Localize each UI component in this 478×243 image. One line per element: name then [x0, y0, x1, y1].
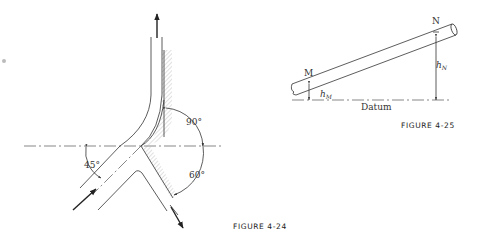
inlet-lower-wall — [98, 171, 167, 211]
figure-4-25-diagram: Datum hM hN M N FIGURE 4-25 — [291, 16, 458, 130]
figure-4-25-caption: FIGURE 4-25 — [401, 121, 455, 130]
lower-vane-hatch — [141, 146, 177, 198]
pipe-left-end — [291, 84, 296, 95]
angle-label-90: 90° — [186, 117, 202, 127]
lower-vane-surface — [141, 146, 173, 198]
figure-4-24-caption: FIGURE 4-24 — [233, 222, 287, 231]
point-m-label: M — [304, 68, 313, 78]
lower-outlet-arrow — [171, 207, 183, 228]
point-n-label: N — [432, 16, 440, 26]
height-n-label: hN — [436, 60, 448, 71]
angle-label-60: 60° — [189, 170, 205, 180]
figures-page: 90° 60° 45° FIGURE 4-24 Datum hM hN M N — [0, 0, 478, 243]
pipe-right-end — [450, 23, 459, 36]
upper-vane-hatch — [146, 50, 172, 146]
height-m-label: hM — [320, 89, 333, 100]
datum-label: Datum — [361, 102, 392, 112]
inlet-arrow — [73, 189, 96, 210]
stray-dot — [2, 59, 6, 63]
pipe-upper-edge — [292, 24, 452, 84]
pipe-lower-edge — [296, 35, 456, 95]
inlet-centerline — [93, 146, 141, 194]
angle-label-45: 45° — [84, 160, 100, 170]
figure-4-24-diagram: 90° 60° 45° FIGURE 4-24 — [24, 14, 287, 231]
